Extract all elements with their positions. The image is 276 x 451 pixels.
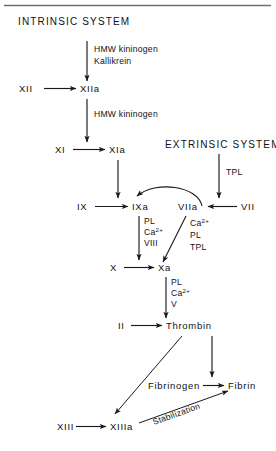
edge-label-tpl: TPL: [226, 167, 243, 177]
node-fibrin: Fibrin: [228, 380, 256, 391]
cofactor-viia-pl: PL: [190, 230, 201, 240]
node-xiii: XIII: [57, 421, 74, 432]
node-viia: VIIa: [178, 201, 198, 212]
node-x: X: [110, 262, 117, 273]
node-fibrinogen: Fibrinogen: [148, 380, 200, 391]
cofactor-viia-calcium: Ca2+: [190, 217, 209, 229]
node-ix: IX: [77, 201, 87, 212]
node-xi: XI: [55, 144, 65, 155]
cofactor-viia-tpl: TPL: [190, 242, 207, 252]
node-xii: XII: [19, 83, 33, 94]
edge-label-hmw-kininogen-1: HMW kininogen: [94, 44, 158, 54]
node-ii: II: [118, 320, 125, 331]
intrinsic-system-header: INTRINSIC SYSTEM: [18, 16, 130, 27]
cofactor-xa-factor-v: V: [171, 299, 177, 309]
edge-thrombin-to-xiiia: [115, 336, 182, 414]
node-xia: XIa: [109, 144, 125, 155]
cofactor-xa-calcium: Ca2+: [171, 287, 190, 299]
edge-label-hmw-kininogen-2: HMW kininogen: [94, 109, 158, 119]
edge-label-stabilization: Stabilization: [151, 401, 201, 427]
extrinsic-system-header: EXTRINSIC SYSTEM: [165, 139, 276, 150]
cascade-canvas: INTRINSIC SYSTEM EXTRINSIC SYSTEM HMW ki…: [0, 0, 276, 451]
node-xiia: XIIa: [80, 83, 100, 94]
node-ixa: IXa: [132, 201, 148, 212]
cofactor-xa-pl: PL: [171, 277, 182, 287]
node-thrombin: Thrombin: [166, 320, 212, 331]
coagulation-cascade-diagram: INTRINSIC SYSTEM EXTRINSIC SYSTEM HMW ki…: [0, 0, 276, 451]
node-vii: VII: [241, 201, 255, 212]
cofactor-ixa-factor-viii: VIII: [144, 238, 158, 248]
cofactor-ixa-calcium: Ca2+: [144, 226, 163, 238]
node-xa: Xa: [158, 262, 171, 273]
edge-viia-to-xa: [163, 216, 186, 262]
edge-label-kallikrein: Kallikrein: [94, 56, 131, 66]
cofactor-ixa-pl: PL: [144, 216, 155, 226]
node-xiiia: XIIIa: [110, 421, 133, 432]
